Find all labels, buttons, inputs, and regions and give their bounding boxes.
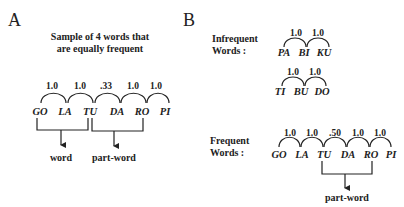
syllable: BI [297,47,310,58]
part-word-label: part-word [92,152,136,163]
tp-label: 1.0 [74,81,86,91]
panel-a-label: A [8,10,21,30]
tp-label: .33 [100,81,112,91]
infrequent-label-line2: Words : [212,45,246,56]
panel-a-arcs [41,93,169,103]
syllable: BU [293,86,310,97]
infrequent-word-2: 1.0 1.0 TI BU DO [275,67,330,97]
tp-label: 1.0 [46,81,58,91]
part-word-bracket [92,118,143,146]
syllable: PI [160,106,171,117]
tp-label: 1.0 [374,128,386,138]
syllable: LA [57,106,71,117]
syllable: PA [278,47,291,58]
syllable: PI [386,149,397,160]
panel-a-title-line1: Sample of 4 words that [51,31,150,42]
part-word-label: part-word [325,192,369,203]
panel-a: A Sample of 4 words that are equally fre… [8,10,171,163]
tp-label: 1.0 [284,128,296,138]
tp-label: 1.0 [290,28,302,38]
word-label: word [50,152,73,163]
infrequent-word-1: 1.0 1.0 PA BI KU [278,28,333,58]
syllable: KU [316,47,333,58]
syllable: DA [109,106,125,117]
panel-b-label: B [183,10,195,30]
syllable: DA [340,149,356,160]
syllable: RO [363,149,379,160]
syllable: TU [317,149,332,160]
panel-a-title-line2: are equally frequent [57,43,144,54]
panel-b: B Infrequent Words : 1.0 1.0 PA BI KU 1.… [183,10,397,203]
tp-label: 1.0 [127,81,139,91]
tp-label: 1.0 [352,128,364,138]
tp-label: 1.0 [306,128,318,138]
infrequent-label-line1: Infrequent [212,33,259,44]
tp-label: .50 [329,128,341,138]
word-bracket [37,118,88,145]
syllable: DO [313,86,330,97]
syllable: GO [32,106,48,117]
frequent-label-line2: Words : [210,147,244,158]
frequent-arcs [279,137,391,147]
syllable: LA [294,149,308,160]
syllable: GO [271,149,287,160]
syllable: RO [134,106,150,117]
tp-label: 1.0 [309,67,321,77]
frequent-label-line1: Frequent [210,135,250,146]
syllable: TI [275,86,286,97]
syllable: TU [83,106,98,117]
frequent-part-word-bracket [322,161,372,188]
tp-label: 1.0 [312,28,324,38]
tp-label: 1.0 [150,81,162,91]
tp-label: 1.0 [287,67,299,77]
statistical-learning-diagram: A Sample of 4 words that are equally fre… [0,0,404,207]
